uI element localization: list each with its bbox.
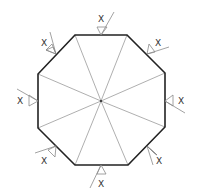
weld-symbol-top-left [46, 32, 56, 54]
label-bottom-right: X [156, 156, 162, 166]
center-point [100, 100, 102, 102]
label-bottom: X [98, 179, 104, 189]
label-top-right: X [155, 38, 161, 48]
label-bottom-left: X [41, 156, 47, 166]
label-top: X [98, 14, 104, 24]
label-right: X [178, 96, 184, 106]
label-top-left: X [41, 38, 47, 48]
octagon-diagram: X X X X X X X X [0, 0, 199, 194]
label-left: X [17, 96, 23, 106]
